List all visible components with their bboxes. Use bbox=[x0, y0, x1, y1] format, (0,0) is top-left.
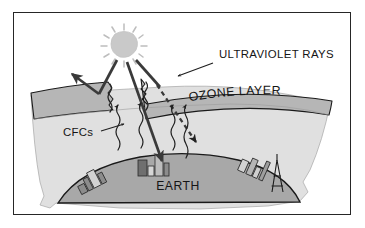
sun-disc bbox=[111, 32, 137, 58]
sun bbox=[101, 24, 147, 67]
cfcs-label: CFCs bbox=[63, 126, 93, 138]
ultraviolet-rays-callout: ULTRAVIOLET RAYS bbox=[178, 48, 334, 76]
uv-ray-incoming-3 bbox=[136, 60, 160, 87]
earth-label: EARTH bbox=[156, 179, 200, 193]
ultraviolet-rays-leader-line bbox=[178, 63, 213, 76]
figure-root: OZONE LAYER EARTH bbox=[0, 0, 365, 228]
ozone-diagram: OZONE LAYER EARTH bbox=[0, 0, 365, 228]
ultraviolet-rays-label: ULTRAVIOLET RAYS bbox=[219, 48, 334, 60]
